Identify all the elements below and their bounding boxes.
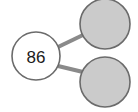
graph-canvas: 86: [0, 0, 138, 112]
node-86[interactable]: 86: [12, 32, 60, 80]
node-leaf-top[interactable]: [80, 0, 130, 49]
edge-layer: [58, 35, 83, 72]
node-leaf-bottom[interactable]: [80, 57, 130, 107]
node-leaf-top-circle[interactable]: [80, 0, 130, 49]
node-layer: 86: [12, 0, 130, 107]
edge-86-to-leaf-bottom: [58, 66, 83, 72]
node-86-label: 86: [27, 48, 46, 67]
edge-86-to-leaf-top: [58, 35, 83, 47]
node-leaf-bottom-circle[interactable]: [80, 57, 130, 107]
graph-svg: 86: [0, 0, 138, 112]
